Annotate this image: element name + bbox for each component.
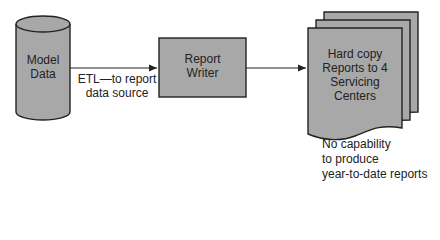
model-data-label: Model Data [16,53,70,81]
note-line-1: No capability [322,137,427,152]
model-data-line-1: Model [16,53,70,67]
report-writer-label: Report Writer [159,52,246,80]
note-line-3: year-to-date reports [322,167,427,182]
etl-label-line-2: data source [72,86,162,100]
hard-copy-line-1: Hard copy [308,47,402,61]
hard-copy-line-4: Centers [308,89,402,103]
note-line-2: to produce [322,152,427,167]
hard-copy-label: Hard copy Reports to 4 Servicing Centers [308,47,402,103]
hard-copy-line-2: Reports to 4 [308,61,402,75]
report-writer-line-1: Report [159,52,246,66]
hard-copy-line-3: Servicing [308,75,402,89]
report-writer-line-2: Writer [159,66,246,80]
etl-label-line-1: ETL—to report [72,72,162,86]
capability-note: No capability to produce year-to-date re… [322,137,427,182]
etl-edge-label: ETL—to report data source [72,72,162,100]
model-data-line-2: Data [16,67,70,81]
